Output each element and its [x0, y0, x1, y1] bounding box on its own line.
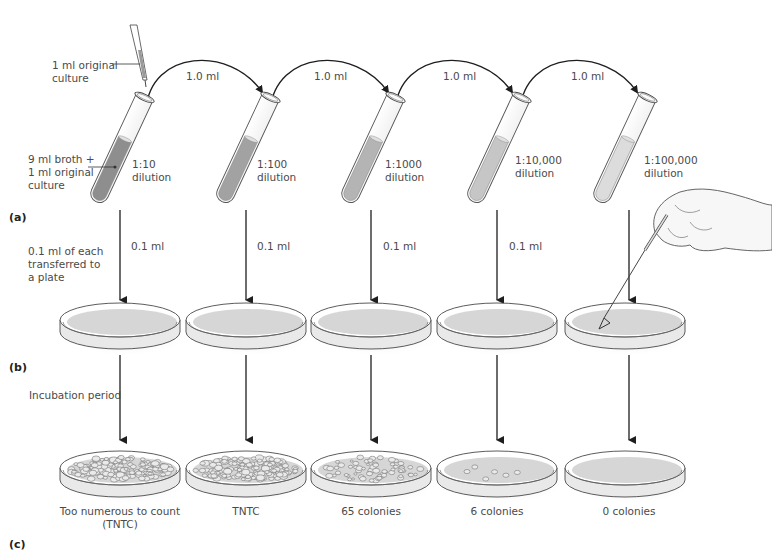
plate-volume-3: 0.1 ml	[383, 240, 416, 253]
test-tube-3	[337, 90, 406, 206]
plate-c-3	[311, 451, 441, 504]
plate-b-1	[60, 303, 190, 356]
part-label-c: (c)	[9, 538, 26, 551]
transfer-volume-1: 1.0 ml	[186, 70, 219, 83]
first-tube-label: 9 ml broth + 1 ml original culture	[28, 153, 95, 192]
plate-volume-4: 0.1 ml	[509, 240, 542, 253]
plate-c-1	[60, 451, 190, 504]
incubation-arrows	[120, 355, 629, 440]
plate-volume-2: 0.1 ml	[257, 240, 290, 253]
result-label-3: 65 colonies	[321, 505, 421, 518]
plate-b-4	[437, 303, 567, 356]
transfer-volume-3: 1.0 ml	[443, 70, 476, 83]
pointer-dot	[114, 166, 117, 169]
plate-b-5	[565, 303, 695, 356]
test-tube-1	[86, 90, 155, 206]
part-label-a: (a)	[9, 211, 26, 224]
part-label-b: (b)	[9, 361, 27, 374]
dilution-label-2: 1:100 dilution	[257, 158, 296, 184]
test-tube-2	[212, 90, 281, 206]
result-label-1: Too numerous to count (TNTC)	[55, 505, 185, 531]
dilution-label-4: 1:10,000 dilution	[515, 154, 562, 180]
test-tube-4	[463, 90, 532, 206]
transfer-volume-4: 1.0 ml	[571, 70, 604, 83]
plates-after-incubation	[60, 451, 695, 504]
dilution-label-5: 1:100,000 dilution	[644, 154, 698, 180]
result-label-2: TNTC	[196, 505, 296, 518]
dilution-label-1: 1:10 dilution	[132, 158, 171, 184]
plate-b-2	[186, 303, 316, 356]
plate-b-3	[311, 303, 441, 356]
test-tubes	[86, 90, 658, 206]
plate-volume-1: 0.1 ml	[131, 240, 164, 253]
transfer-label: 0.1 ml of each transferred to a plate	[28, 245, 103, 284]
result-label-4: 6 colonies	[447, 505, 547, 518]
plate-c-2	[186, 451, 316, 504]
transfer-volume-2: 1.0 ml	[314, 70, 347, 83]
incubation-label: Incubation period	[29, 389, 121, 402]
plates-before-incubation	[60, 303, 695, 356]
plate-transfer-arrows	[120, 210, 629, 300]
result-label-5: 0 colonies	[579, 505, 679, 518]
dilution-label-3: 1:1000 dilution	[385, 158, 424, 184]
plate-c-5	[565, 451, 695, 504]
test-tube-5	[589, 90, 658, 206]
pipette-label: 1 ml original culture	[52, 59, 118, 85]
plate-c-4	[437, 451, 567, 504]
